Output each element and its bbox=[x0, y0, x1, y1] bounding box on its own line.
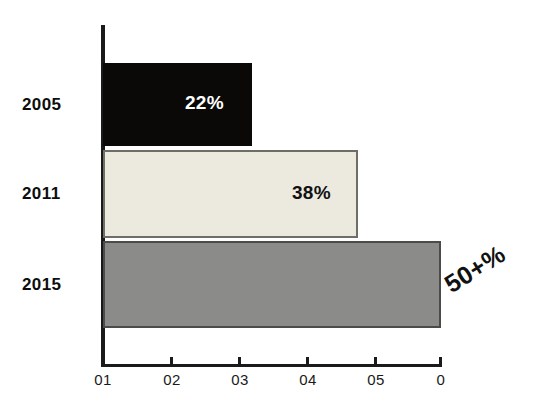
x-axis-tick-label-2: 03 bbox=[220, 371, 260, 388]
x-axis-tick-label-4: 05 bbox=[356, 371, 396, 388]
x-axis-tick-2 bbox=[238, 357, 241, 366]
bar-2005 bbox=[103, 63, 252, 146]
x-axis-tick-3 bbox=[306, 357, 309, 366]
bar-chart: 01 02 03 04 05 0 2005 2011 2015 22% 38% … bbox=[0, 0, 539, 409]
category-label-2011: 2011 bbox=[22, 184, 94, 204]
x-axis-tick-4 bbox=[374, 357, 377, 366]
bar-value-label-2015: 50+% bbox=[439, 239, 510, 298]
x-axis-tick-1 bbox=[170, 357, 173, 366]
x-axis-tick-5 bbox=[439, 357, 442, 366]
bar-value-label-2005: 22% bbox=[185, 92, 224, 114]
bar-2015 bbox=[103, 241, 441, 328]
category-label-2005: 2005 bbox=[22, 95, 94, 115]
category-label-2015: 2015 bbox=[22, 275, 94, 295]
x-axis-tick-label-0: 01 bbox=[83, 371, 123, 388]
bar-value-label-2011: 38% bbox=[292, 182, 331, 204]
x-axis-line bbox=[101, 364, 442, 367]
x-axis-tick-label-3: 04 bbox=[288, 371, 328, 388]
x-axis-tick-label-5: 0 bbox=[421, 371, 461, 388]
x-axis-tick-0 bbox=[101, 357, 104, 366]
x-axis-tick-label-1: 02 bbox=[152, 371, 192, 388]
